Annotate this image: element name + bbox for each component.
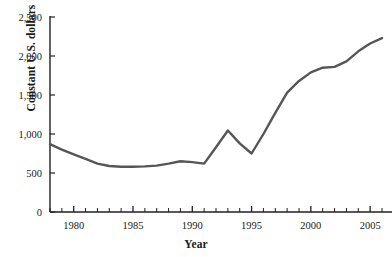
y-tick-label: 2,500 — [0, 12, 42, 23]
x-tick-label: 2005 — [360, 220, 381, 231]
x-tick-label: 1985 — [123, 220, 144, 231]
y-tick-label: 500 — [0, 168, 42, 179]
x-tick-label: 2000 — [300, 220, 321, 231]
axes-group — [50, 16, 392, 212]
y-tick-label: 1,000 — [0, 129, 42, 140]
y-tick-label: 1,500 — [0, 90, 42, 101]
x-tick-label: 1980 — [63, 220, 84, 231]
chart-container: Constant U.S. dollars Year 05001,0001,50… — [0, 0, 392, 257]
x-tick-label: 1990 — [182, 220, 203, 231]
y-tick-label: 0 — [0, 207, 42, 218]
y-tick-label: 2,000 — [0, 51, 42, 62]
data-line — [50, 38, 382, 167]
plot-area — [0, 0, 392, 257]
x-tick-label: 1995 — [241, 220, 262, 231]
data-series-group — [50, 38, 382, 167]
